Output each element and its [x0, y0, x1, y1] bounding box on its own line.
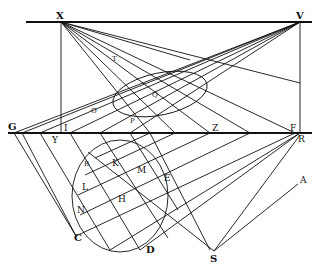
- label-y: Y: [51, 135, 59, 145]
- label-z: Z: [212, 123, 218, 133]
- label-v: V: [295, 10, 304, 21]
- label-s: S: [210, 253, 217, 264]
- label-a: A: [299, 175, 307, 185]
- label-c: C: [74, 232, 82, 243]
- label-g: G: [8, 121, 17, 132]
- label-t: T: [112, 55, 117, 63]
- grid-diagonal-b: [76, 133, 300, 250]
- label-n: N: [77, 205, 85, 215]
- label-l: L: [82, 182, 88, 192]
- label-q: Q: [152, 91, 158, 99]
- label-x: X: [56, 10, 64, 21]
- rays-from-v: [14, 22, 300, 133]
- label-b: B: [84, 160, 89, 168]
- label-d: D: [146, 244, 155, 255]
- label-f: F: [290, 123, 296, 133]
- label-p: P: [130, 117, 135, 125]
- label-m: M: [137, 165, 146, 175]
- label-e: E: [164, 173, 171, 183]
- label-i: I: [64, 123, 68, 133]
- label-h: H: [118, 194, 126, 204]
- label-k: K: [112, 158, 119, 168]
- label-r: R: [298, 134, 305, 144]
- rays-from-x: [61, 22, 300, 133]
- perspective-diagram: X V T O Q P G I Y Z F R B K M L E H N C …: [0, 0, 321, 271]
- label-o: O: [91, 107, 97, 115]
